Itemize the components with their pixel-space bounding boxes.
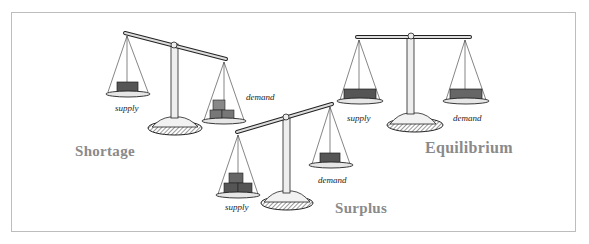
equilibrium-supply-label: supply bbox=[347, 113, 371, 123]
balance-scales-illustration bbox=[0, 0, 589, 244]
equilibrium-demand-label: demand bbox=[453, 113, 482, 123]
surplus-demand-label: demand bbox=[318, 175, 347, 185]
shortage-title: Shortage bbox=[75, 143, 135, 160]
shortage-supply-label: supply bbox=[115, 103, 139, 113]
surplus-title: Surplus bbox=[335, 200, 387, 217]
shortage-scale-icon bbox=[106, 33, 246, 135]
equilibrium-title: Equilibrium bbox=[425, 139, 513, 157]
shortage-demand-label: demand bbox=[246, 92, 275, 102]
surplus-supply-label: supply bbox=[225, 202, 249, 212]
